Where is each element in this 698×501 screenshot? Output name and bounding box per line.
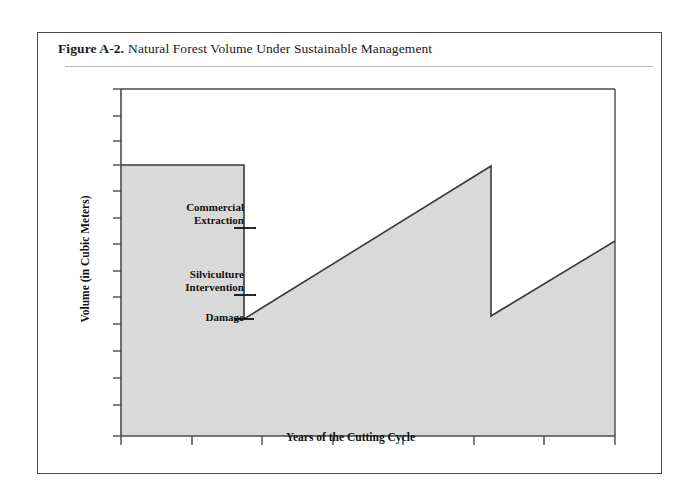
annotation-commercial-extraction: Commercial Extraction — [124, 201, 244, 226]
y-axis-ticks — [113, 89, 121, 436]
figure-page: Figure A-2.Natural Forest Volume Under S… — [0, 0, 698, 501]
figure-border-frame: Figure A-2.Natural Forest Volume Under S… — [37, 32, 662, 474]
y-axis-title: Volume (in Cubic Meters) — [79, 169, 91, 349]
annotation-silviculture-intervention: Silviculture Intervention — [118, 268, 244, 293]
annotation-damage: Damage — [124, 311, 244, 324]
sawtooth-area-chart — [38, 33, 663, 475]
x-axis-title: Years of the Cutting Cycle — [38, 431, 663, 443]
chart-plot-area: Volume (in Cubic Meters) Years of the Cu… — [38, 33, 663, 475]
